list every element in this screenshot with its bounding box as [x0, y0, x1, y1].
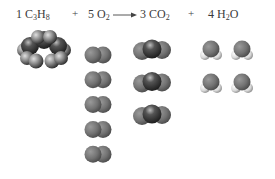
oxygen-molecule [85, 121, 112, 138]
hydrogen-atom [43, 30, 57, 44]
oxygen-molecule [85, 71, 112, 88]
carbon-dioxide-molecule [133, 105, 171, 126]
oxygen-atom [203, 41, 220, 58]
water-molecule [200, 41, 222, 61]
hydrogen-atom [29, 54, 44, 69]
hydrogen-atom [54, 51, 68, 65]
oxygen-molecule-group [85, 47, 112, 163]
oxygen-atom [85, 146, 102, 163]
propane-molecule-group [17, 30, 71, 69]
oxygen-atom [85, 71, 102, 88]
molecule-models [0, 0, 275, 179]
oxygen-atom [234, 74, 251, 91]
oxygen-molecule [85, 146, 112, 163]
carbon-dioxide-molecule [133, 40, 171, 61]
water-molecule [200, 74, 222, 94]
oxygen-atom [203, 74, 220, 91]
hydrogen-atom [31, 30, 45, 44]
oxygen-atom [85, 121, 102, 138]
carbon-dioxide-molecule [133, 72, 171, 93]
carbon-dioxide-molecule-group [133, 40, 171, 126]
oxygen-molecule [85, 96, 112, 113]
oxygen-atom [85, 96, 102, 113]
carbon-atom [143, 40, 162, 59]
water-molecule [231, 41, 253, 61]
water-molecule-group [200, 41, 253, 94]
propane-molecule [17, 30, 71, 69]
oxygen-atom [85, 47, 102, 64]
carbon-atom [143, 105, 162, 124]
carbon-atom [143, 72, 162, 91]
oxygen-molecule [85, 47, 112, 64]
oxygen-atom [234, 41, 251, 58]
water-molecule [231, 74, 253, 94]
